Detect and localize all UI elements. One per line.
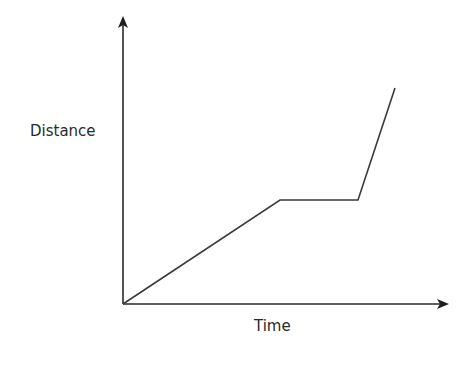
distance-line: [123, 88, 395, 304]
y-axis-label: Distance: [30, 122, 96, 140]
x-axis-label: Time: [254, 317, 291, 335]
distance-time-chart: [0, 0, 470, 366]
